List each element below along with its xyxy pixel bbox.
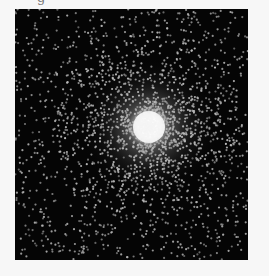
star-cluster-image: [15, 9, 248, 260]
figure-page: g: [0, 0, 269, 276]
star-cluster-graphic: [15, 9, 248, 260]
caption-fragment: g: [37, 0, 45, 4]
